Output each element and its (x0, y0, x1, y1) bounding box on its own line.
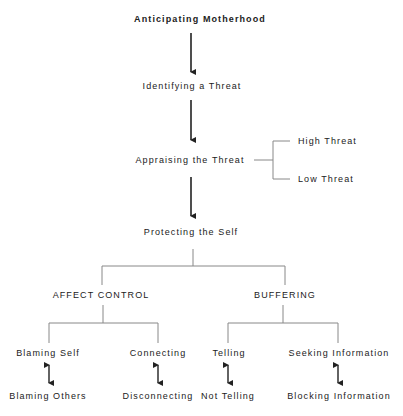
leaf-blocking-information: Blocking Information (287, 391, 391, 402)
leaf-blaming-others: Blaming Others (9, 391, 86, 402)
strategy-affect-control: AFFECT CONTROL (53, 290, 150, 301)
leaf-connecting: Connecting (130, 348, 187, 359)
branch-low-threat: Low Threat (298, 174, 354, 185)
stage-identifying-threat: Identifying a Threat (143, 81, 242, 92)
stage-anticipating-motherhood: Anticipating Motherhood (134, 14, 266, 25)
stage-appraising-threat: Appraising the Threat (136, 155, 245, 166)
leaf-disconnecting: Disconnecting (123, 391, 194, 402)
leaf-telling: Telling (212, 348, 245, 359)
stage-protecting-self: Protecting the Self (144, 227, 238, 238)
strategy-buffering: BUFFERING (254, 290, 316, 301)
leaf-seeking-information: Seeking Information (289, 348, 390, 359)
leaf-not-telling: Not Telling (201, 391, 255, 402)
branch-high-threat: High Threat (298, 136, 357, 147)
leaf-blaming-self: Blaming Self (16, 348, 80, 359)
